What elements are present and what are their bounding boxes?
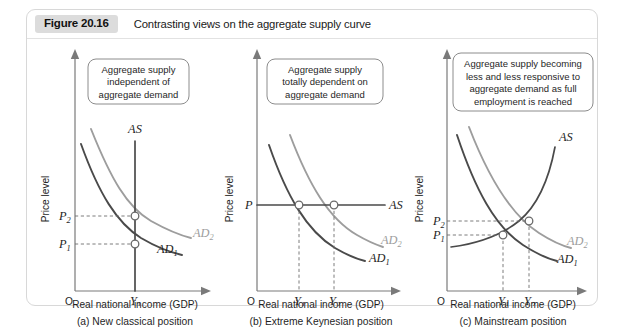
y-axis-title-c: Price level: [414, 176, 425, 223]
equilibrium-marker-b-1: [295, 201, 303, 209]
callout-line-b-2: totally dependent on: [282, 76, 368, 87]
price-tick-a-p1: P1: [58, 237, 71, 253]
panel-b: Aggregate supply totally dependent on ag…: [217, 39, 407, 306]
chart-b: Aggregate supply totally dependent on ag…: [217, 39, 407, 306]
as-label-b: AS: [388, 198, 403, 212]
callout-line-a-2: independent of: [107, 76, 170, 87]
figure-header: Figure 20.16 Contrasting views on the ag…: [27, 10, 597, 39]
panel-c: Aggregate supply becoming less and less …: [407, 39, 599, 306]
ad1-curve-b: [269, 145, 365, 261]
x-axis-title-b: Real national income (GDP): [258, 299, 384, 310]
panel-caption-a: (a) New classical position: [77, 316, 193, 327]
callout-a: Aggregate supply independent of aggregat…: [88, 59, 189, 104]
y-axis-title-b: Price level: [224, 176, 235, 223]
as-label-c: AS: [558, 130, 573, 144]
chart-b-footer: Real national income (GDP) (b) Extreme K…: [217, 297, 407, 331]
callout-line-a-3: aggregate demand: [99, 89, 179, 100]
price-tick-c-p1: P1: [432, 228, 445, 244]
panel-a: Aggregate supply independent of aggregat…: [27, 39, 217, 306]
figure-number-badge: Figure 20.16: [35, 15, 118, 34]
ad2-curve-b: [290, 135, 383, 247]
callout-c: Aggregate supply becoming less and less …: [453, 53, 593, 111]
x-axis-title-a: Real national income (GDP): [72, 299, 198, 310]
y-axis-arrow-c: [443, 49, 451, 59]
chart-c: Aggregate supply becoming less and less …: [407, 39, 599, 306]
panel-caption-b: (b) Extreme Keynesian position: [249, 316, 392, 327]
as-label-a: AS: [127, 122, 142, 136]
callout-line-b-3: aggregate demand: [285, 89, 365, 100]
x-axis-arrow-a: [201, 287, 211, 295]
price-tick-a-p2: P2: [58, 209, 71, 225]
ad2-curve-a: [91, 129, 191, 238]
x-axis-arrow-b: [391, 287, 401, 295]
callout-line-c-2: less and less responsive to: [466, 71, 580, 82]
chart-c-footer: Real national income (GDP) (c) Mainstrea…: [407, 297, 599, 331]
y-axis-arrow-b: [253, 49, 261, 59]
callout-line-c-4: employment is reached: [474, 96, 572, 107]
ad2-label-a: AD2: [192, 226, 214, 242]
ad1-label-a: AD1: [156, 242, 178, 258]
ad1-curve-a: [81, 144, 182, 255]
price-tick-b-p: P: [244, 198, 253, 212]
callout-b: Aggregate supply totally dependent on ag…: [267, 59, 383, 104]
equilibrium-marker-a-2: [131, 212, 139, 220]
ad1-label-b: AD1: [368, 251, 390, 267]
ad2-curve-c: [469, 127, 571, 248]
figure-caption: Contrasting views on the aggregate suppl…: [134, 18, 371, 30]
callout-line-c-3: aggregate demand as full: [469, 83, 576, 94]
equilibrium-marker-a-1: [131, 240, 139, 248]
equilibrium-marker-c-2: [525, 217, 533, 225]
panels-container: Aggregate supply independent of aggregat…: [27, 39, 597, 306]
callout-line-a-1: Aggregate supply: [102, 64, 176, 75]
ad2-label-c: AD2: [566, 234, 588, 250]
y-axis-title-a: Price level: [40, 176, 51, 223]
ad2-label-b: AD2: [380, 233, 402, 249]
chart-a-footer: Real national income (GDP) (a) New class…: [27, 297, 217, 331]
ad1-curve-c: [457, 135, 557, 261]
x-axis-title-c: Real national income (GDP): [450, 299, 576, 310]
panel-caption-c: (c) Mainstream position: [459, 316, 566, 327]
callout-line-c-1: Aggregate supply becoming: [464, 58, 582, 69]
chart-a: Aggregate supply independent of aggregat…: [27, 39, 217, 306]
equilibrium-marker-c-1: [499, 231, 507, 239]
equilibrium-marker-b-2: [330, 201, 338, 209]
figure-frame: Figure 20.16 Contrasting views on the ag…: [26, 9, 598, 306]
ad1-label-c: AD1: [556, 252, 578, 268]
y-axis-arrow-a: [71, 49, 79, 59]
callout-line-b-1: Aggregate supply: [288, 64, 362, 75]
x-axis-arrow-c: [577, 287, 587, 295]
